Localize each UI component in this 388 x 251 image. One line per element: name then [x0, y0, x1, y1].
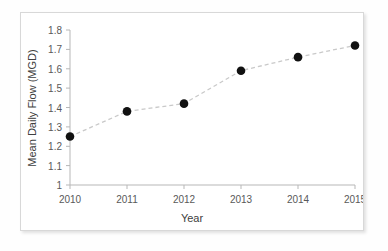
y-tick-label-1-2: 1.2	[48, 141, 62, 152]
y-tick-label-1-0: 1	[56, 180, 62, 191]
x-tick-marks	[70, 185, 355, 189]
y-tick-label-1-8: 1.8	[48, 25, 62, 36]
y-tick-label-1-1: 1.1	[48, 161, 62, 172]
x-tick-label-2015: 2015	[344, 194, 363, 205]
x-axis-title: Year	[181, 212, 204, 224]
data-point-2015	[351, 41, 360, 50]
x-tick-label-2010: 2010	[59, 194, 82, 205]
y-tick-label-1-4: 1.4	[48, 103, 62, 114]
y-tick-label-1-5: 1.5	[48, 83, 62, 94]
series-line-mean-daily-flow	[70, 46, 355, 137]
series-markers	[66, 41, 360, 141]
x-tick-label-2012: 2012	[173, 194, 196, 205]
data-point-2014	[294, 53, 303, 62]
data-point-2011	[123, 107, 132, 116]
y-tick-label-1-6: 1.6	[48, 64, 62, 75]
y-tick-label-1-3: 1.3	[48, 122, 62, 133]
y-tick-label-1-7: 1.7	[48, 44, 62, 55]
data-point-2012	[180, 99, 189, 108]
x-tick-label-2013: 2013	[230, 194, 253, 205]
chart-frame: 1.8 1.7 1.6 1.5 1.4 1.3 1.2 1.1 1 2010 2…	[20, 12, 364, 231]
data-point-2013	[237, 66, 246, 75]
x-tick-label-2014: 2014	[287, 194, 310, 205]
x-tick-label-2011: 2011	[116, 194, 138, 205]
line-chart: 1.8 1.7 1.6 1.5 1.4 1.3 1.2 1.1 1 2010 2…	[21, 13, 363, 230]
figure-root: 1.8 1.7 1.6 1.5 1.4 1.3 1.2 1.1 1 2010 2…	[0, 0, 388, 251]
data-point-2010	[66, 132, 75, 141]
y-axis-title: Mean Daily Flow (MGD)	[26, 49, 38, 166]
y-tick-marks	[66, 30, 70, 185]
